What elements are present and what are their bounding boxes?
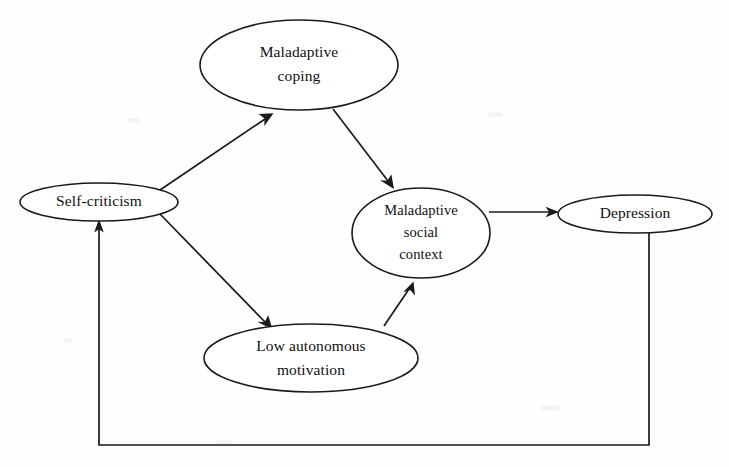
arrowhead bbox=[403, 282, 415, 296]
node-low-autonomous-motivation[interactable]: Low autonomous motivation bbox=[204, 324, 418, 392]
edge-path bbox=[160, 119, 265, 190]
arrowhead bbox=[259, 113, 274, 126]
node-shape[interactable] bbox=[204, 324, 418, 392]
node-label-line: Depression bbox=[600, 204, 671, 221]
node-maladaptive-coping[interactable]: Maladaptive coping bbox=[200, 20, 398, 110]
diagram-canvas: Maladaptive coping Self-criticism Malada… bbox=[0, 0, 729, 467]
node-label-line: Low autonomous bbox=[256, 337, 365, 354]
edge-self-criticism-to-maladaptive-coping bbox=[160, 113, 274, 190]
arrowhead bbox=[380, 174, 394, 189]
node-self-criticism[interactable]: Self-criticism bbox=[20, 183, 178, 221]
node-label-line: social bbox=[404, 224, 438, 240]
edge-low-autonomous-motivation-to-maladaptive-social-context bbox=[384, 282, 415, 327]
node-label-line: coping bbox=[278, 67, 321, 84]
node-label-line: Self-criticism bbox=[56, 192, 142, 209]
edge-maladaptive-social-context-to-depression bbox=[489, 207, 559, 217]
node-depression[interactable]: Depression bbox=[558, 195, 712, 233]
edge-path bbox=[384, 289, 409, 326]
node-shape[interactable] bbox=[200, 20, 398, 110]
edge-self-criticism-to-low-autonomous-motivation bbox=[160, 214, 273, 330]
edge-path bbox=[160, 214, 265, 322]
node-maladaptive-social-context[interactable]: Maladaptive social context bbox=[352, 188, 490, 278]
diagram-svg: Maladaptive coping Self-criticism Malada… bbox=[0, 0, 729, 467]
node-label-line: motivation bbox=[277, 361, 345, 378]
node-label-line: Maladaptive bbox=[384, 202, 458, 218]
edge-maladaptive-coping-to-maladaptive-social-context bbox=[333, 109, 394, 189]
node-label-line: Maladaptive bbox=[260, 43, 339, 60]
node-label-line: context bbox=[399, 246, 442, 262]
edge-path bbox=[333, 109, 388, 181]
